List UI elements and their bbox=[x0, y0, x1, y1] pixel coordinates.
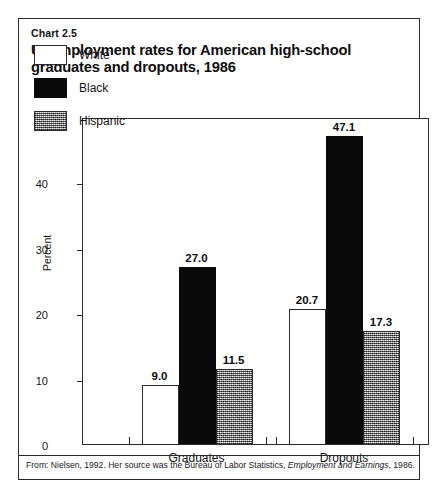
source-note: From: Nielsen, 1992. Her source was the … bbox=[26, 460, 413, 471]
bar-value-label: 27.0 bbox=[185, 252, 207, 264]
y-tick-mark bbox=[77, 250, 83, 251]
legend-item-hispanic: Hispanic bbox=[34, 111, 125, 131]
y-tick-mark bbox=[77, 184, 83, 185]
y-tick-mark bbox=[77, 315, 83, 316]
source-publication: Employment and Earnings bbox=[288, 460, 389, 470]
bar-value-label: 9.0 bbox=[152, 370, 168, 382]
source-suffix: , 1986. bbox=[389, 460, 415, 470]
bar bbox=[179, 267, 216, 444]
y-tick-label: 40 bbox=[14, 178, 48, 190]
y-tick-label: 10 bbox=[14, 375, 48, 387]
source-prefix: From: Nielsen, 1992. Her source was the … bbox=[26, 460, 288, 470]
group-separator-tick bbox=[276, 437, 277, 444]
plot-area: 01020304050 bbox=[82, 118, 429, 445]
legend-item-label: White bbox=[79, 48, 110, 62]
chart-figure: Chart 2.5 Unemployment rates for America… bbox=[18, 18, 420, 480]
group-separator-tick bbox=[413, 437, 414, 444]
bar bbox=[289, 309, 326, 444]
black-swatch bbox=[34, 78, 67, 98]
bar bbox=[142, 385, 179, 444]
legend: WhiteBlackHispanic bbox=[34, 45, 125, 144]
legend-item-label: Hispanic bbox=[79, 114, 125, 128]
group-separator-tick bbox=[266, 437, 267, 444]
bar-value-label: 17.3 bbox=[370, 316, 392, 328]
group-separator-tick bbox=[129, 437, 130, 444]
y-tick-label: 0 bbox=[14, 440, 48, 452]
bar-value-label: 11.5 bbox=[223, 354, 245, 366]
bar bbox=[216, 369, 253, 444]
white-swatch bbox=[34, 45, 67, 65]
bar bbox=[363, 331, 400, 444]
hispanic-stipple-swatch bbox=[34, 111, 67, 131]
y-tick-label: 20 bbox=[14, 309, 48, 321]
y-tick-label: 30 bbox=[14, 244, 48, 256]
chart-number: Chart 2.5 bbox=[31, 27, 409, 39]
bar-value-label: 20.7 bbox=[296, 294, 318, 306]
bar-value-label: 47.1 bbox=[333, 121, 355, 133]
legend-item-white: White bbox=[34, 45, 125, 65]
legend-item-black: Black bbox=[34, 78, 125, 98]
bar bbox=[326, 136, 363, 444]
legend-item-label: Black bbox=[79, 81, 108, 95]
footer-divider bbox=[19, 455, 419, 456]
y-tick-mark bbox=[77, 381, 83, 382]
